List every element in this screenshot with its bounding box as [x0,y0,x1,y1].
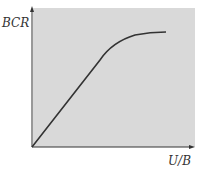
y-axis-label: BCR [1,16,29,30]
x-axis-label: U/B [168,154,191,168]
bcr-curve-diagram: BCR U/B [0,0,202,171]
plot-area [33,8,195,147]
